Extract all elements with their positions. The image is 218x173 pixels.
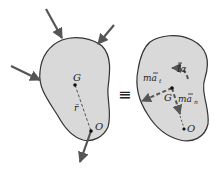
svg-text:Iα: Iα	[176, 64, 187, 74]
right-label-g: G	[164, 92, 172, 103]
force-arrow-top-left	[46, 9, 62, 38]
right-g-point	[170, 86, 174, 90]
svg-text:n: n	[194, 98, 198, 105]
left-g-point	[73, 83, 77, 87]
diagram-canvas: G O r̄ ≡ G O Iα ma t ma n	[0, 0, 218, 173]
equivalence-symbol: ≡	[118, 85, 131, 104]
left-o-point	[89, 129, 93, 133]
right-o-point	[182, 127, 185, 130]
force-arrow-left	[11, 66, 40, 80]
left-label-g: G	[73, 72, 81, 83]
left-label-o: O	[95, 121, 103, 132]
force-arrow-top-right	[98, 25, 114, 44]
moment-label: Iα	[176, 63, 187, 74]
svg-text:ma: ma	[178, 94, 192, 104]
right-label-o: O	[187, 123, 195, 134]
svg-text:ma: ma	[143, 73, 157, 83]
